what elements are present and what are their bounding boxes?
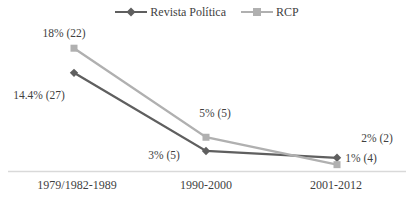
diamond-marker-icon xyxy=(333,154,341,162)
x-axis-label-period-2: 1990-2000 xyxy=(180,178,232,193)
line-chart-figure: Revista Política RCP 14.4% (27)3% (5)2% … xyxy=(0,0,413,203)
x-axis-label-period-1: 1979/1982-1989 xyxy=(37,178,116,193)
x-axis-label-period-3: 2001-2012 xyxy=(310,178,362,193)
data-label: 1% (4) xyxy=(345,152,377,165)
data-label: 3% (5) xyxy=(148,149,180,162)
data-label: 5% (5) xyxy=(199,107,231,120)
square-marker-icon xyxy=(334,161,341,168)
plot-area: 14.4% (27)3% (5)2% (2)18% (22)5% (5)1% (… xyxy=(0,0,413,203)
data-label: 14.4% (27) xyxy=(13,89,65,102)
square-marker-icon xyxy=(71,45,78,52)
data-label: 2% (2) xyxy=(361,132,393,145)
square-marker-icon xyxy=(203,134,210,141)
data-label: 18% (22) xyxy=(42,27,85,40)
